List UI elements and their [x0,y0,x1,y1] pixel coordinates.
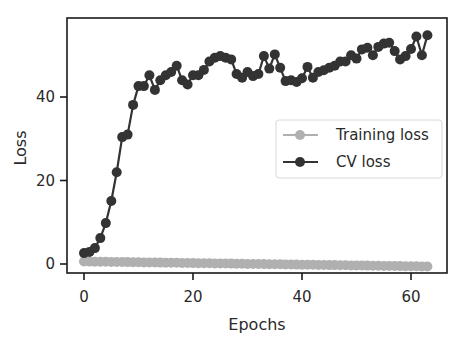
cv-loss-point [226,54,236,64]
loss-chart: 02040 0204060 Epochs Loss Training loss … [0,0,461,347]
cv-loss-point [172,61,182,71]
x-tick-label: 60 [401,288,420,306]
cv-loss-point [390,46,400,56]
cv-loss-point [106,196,116,206]
cv-loss-point [406,44,416,54]
cv-loss-point [199,65,209,75]
cv-loss-point [270,49,280,59]
cv-loss-point [95,233,105,243]
y-tick-label: 40 [36,88,55,106]
cv-loss-point [183,80,193,90]
cv-loss-point [253,69,263,79]
training-loss-marker-icon [295,130,305,140]
cv-loss-point [101,218,111,228]
cv-loss-point [352,54,362,64]
cv-loss-point [123,130,133,140]
cv-loss-point [303,62,313,72]
y-tick-label: 20 [36,172,55,190]
cv-loss-point [411,32,421,42]
legend: Training loss CV loss [276,120,442,178]
y-tick-label: 0 [45,255,55,273]
x-tick-label: 40 [292,288,311,306]
cv-loss-point [422,30,432,40]
cv-loss-point [275,63,285,73]
cv-loss-point [90,243,100,253]
cv-loss-point [128,100,138,110]
cv-loss-point [368,50,378,60]
cv-loss-point [112,167,122,177]
cv-loss-point [139,81,149,91]
x-tick-label: 20 [183,288,202,306]
cv-loss-point [150,85,160,95]
cv-loss-point [384,38,394,48]
x-tick-label: 0 [79,288,89,306]
legend-label-cv-loss: CV loss [336,153,391,171]
training-loss-point [422,262,432,272]
cv-loss-marker-icon [295,157,305,167]
cv-loss-point [417,50,427,60]
legend-label-training-loss: Training loss [335,126,429,144]
cv-loss-point [259,51,269,61]
x-axis-label: Epochs [228,315,285,334]
y-axis-label: Loss [11,130,30,165]
cv-loss-point [144,70,154,80]
cv-loss-point [264,64,274,74]
cv-loss-point [297,73,307,83]
